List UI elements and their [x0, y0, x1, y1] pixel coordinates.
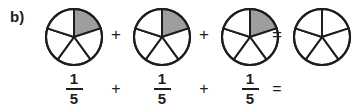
top-operator-plus-1: + [108, 26, 124, 43]
equation-operator-plus-1: + [108, 81, 124, 97]
problem-label: b) [10, 8, 25, 25]
pie-1-svg [43, 6, 105, 68]
fraction-2-denominator: 5 [131, 92, 193, 106]
equation-operator-equals: = [269, 81, 285, 97]
worksheet-problem: b) + + = [0, 0, 361, 112]
equation-operator-plus-2: + [196, 81, 212, 97]
top-operator-equals: = [269, 26, 285, 43]
pie-chart-answer[interactable] [291, 6, 353, 68]
pie-answer-svg [291, 6, 353, 68]
equation-answer-blank[interactable] [292, 74, 350, 100]
fraction-1-numerator: 1 [43, 72, 105, 86]
pie-chart-2 [131, 6, 193, 68]
top-operator-plus-2: + [196, 26, 212, 43]
fraction-term-1: 1 5 [43, 72, 105, 106]
pie-chart-1 [43, 6, 105, 68]
fraction-1-denominator: 5 [43, 92, 105, 106]
fraction-term-2: 1 5 [131, 72, 193, 106]
pie-2-svg [131, 6, 193, 68]
fraction-2-numerator: 1 [131, 72, 193, 86]
